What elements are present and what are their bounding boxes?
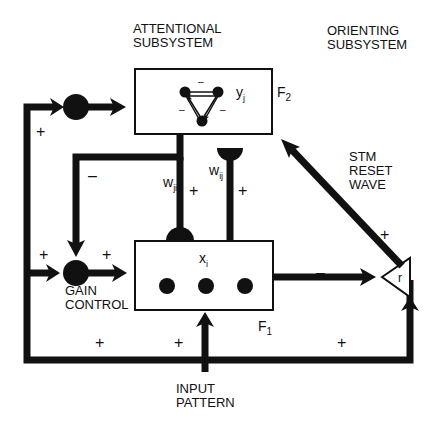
f1-node-2: [198, 278, 214, 294]
f1-layer-label: F1: [258, 318, 273, 337]
f1-node-1: [159, 278, 175, 294]
orienting-header-line2: SUBSYSTEM: [327, 37, 407, 52]
orienting-node-label: r: [398, 271, 402, 285]
sign-top-down: +: [189, 182, 198, 199]
sign-gain-right: +: [102, 246, 111, 263]
attentional-header-line1: ATTENTIONAL: [133, 21, 222, 36]
orienting-header-line1: ORIENTING: [327, 23, 399, 38]
input-bypass-path: [27, 107, 410, 360]
top-down-weight-label: wji: [162, 174, 177, 193]
f2-layer-label: F2: [277, 84, 292, 103]
reset-label-line1: STM: [349, 149, 376, 164]
input-label-line1: INPUT: [176, 381, 215, 396]
sign-bottom-left: +: [95, 334, 104, 351]
sign-bottom-right: +: [337, 334, 346, 351]
input-label-line2: PATTERN: [176, 395, 235, 410]
attentional-gain-node: [63, 94, 89, 120]
reset-label-line2: RESET: [349, 163, 392, 178]
reset-label-line3: WAVE: [349, 177, 386, 192]
sign-f1-to-r: –: [316, 264, 325, 281]
f2-inhibit-sign-left: –: [179, 104, 185, 115]
bottom-up-synapse-icon: [217, 148, 243, 161]
art-diagram: ATTENTIONAL SUBSYSTEM ORIENTING SUBSYSTE…: [0, 0, 444, 429]
f2-inhibit-sign-top: –: [198, 76, 204, 87]
bottom-up-weight-label: wij: [208, 162, 223, 181]
sign-bottom-mid: +: [174, 334, 183, 351]
sign-inhibit: –: [88, 167, 97, 184]
sign-reset: +: [380, 226, 389, 243]
top-down-synapse-icon: [166, 227, 194, 241]
f2-inhibit-sign-right: –: [220, 104, 226, 115]
attentional-header-line2: SUBSYSTEM: [133, 35, 213, 50]
sign-bottom-up: +: [238, 182, 247, 199]
gain-control-label-line2: CONTROL: [65, 297, 129, 312]
sign-gain-left: +: [39, 246, 48, 263]
gain-control-label-line1: GAIN: [65, 283, 97, 298]
f1-node-3: [237, 278, 253, 294]
sign-left-upper: +: [36, 123, 45, 140]
